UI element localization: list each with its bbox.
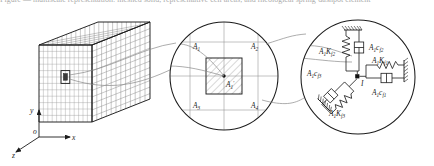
axis-label-y: y [29, 106, 34, 115]
element-model-circle: I A1K [301, 20, 415, 134]
axis-label-origin: o [33, 127, 37, 136]
figure-canvas: y x z o [0, 0, 434, 166]
cube-side-mesh [88, 10, 154, 130]
meshed-cube [34, 10, 156, 130]
node-label-I: I [360, 79, 364, 88]
element-central-node [355, 74, 359, 78]
axis-label-x: x [71, 133, 76, 142]
cell-detail-circle: A1 A2 A3 A4 A1' [168, 20, 282, 134]
axis-label-z: z [11, 151, 15, 160]
cube-outline [39, 22, 150, 122]
